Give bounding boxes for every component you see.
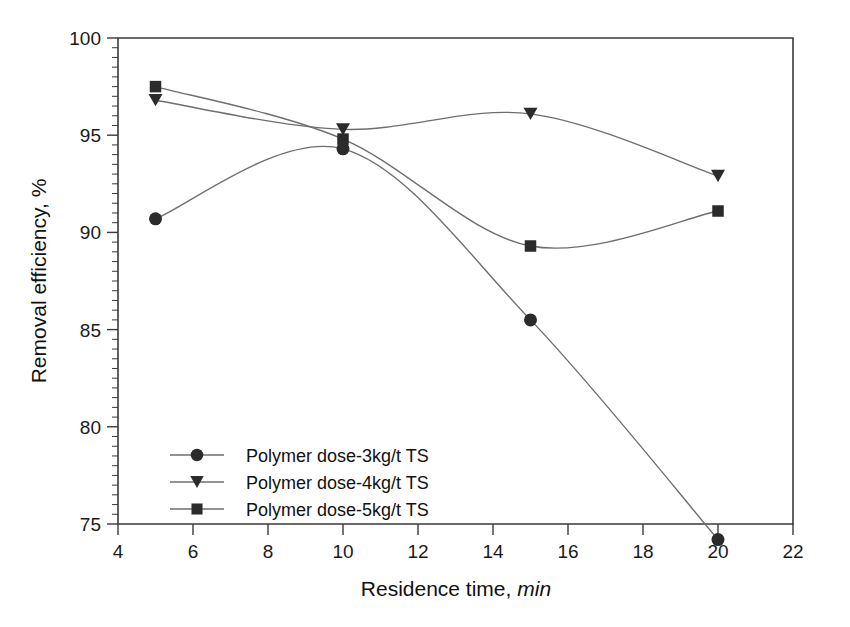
y-tick-label-100: 100 [69, 28, 101, 49]
x-axis-title: Residence time,min [361, 577, 551, 600]
y-tick-label-80: 80 [80, 417, 101, 438]
chart-background [0, 0, 850, 627]
y-tick-label-85: 85 [80, 320, 101, 341]
x-tick-label-18: 18 [632, 541, 653, 562]
legend-label-3: Polymer dose-5kg/t TS [246, 500, 429, 520]
x-tick-label-22: 22 [782, 541, 803, 562]
series-3-marker-10 [337, 133, 349, 145]
y-tick-label-75: 75 [80, 514, 101, 535]
series-3-marker-15 [525, 240, 537, 252]
series-3-marker-20 [712, 205, 724, 217]
x-tick-label-12: 12 [407, 541, 428, 562]
y-tick-label-90: 90 [80, 222, 101, 243]
legend-marker-3 [191, 503, 202, 514]
legend-label-2: Polymer dose-4kg/t TS [246, 473, 429, 493]
x-tick-label-10: 10 [332, 541, 353, 562]
series-3-marker-5 [150, 81, 162, 93]
y-tick-label-95: 95 [80, 125, 101, 146]
y-axis-title: Removal efficiency, % [27, 179, 50, 384]
x-tick-label-14: 14 [482, 541, 504, 562]
removal-efficiency-line-chart: 7580859095100 46810121416182022 Polymer … [0, 0, 850, 627]
x-tick-label-4: 4 [113, 541, 124, 562]
x-tick-label-6: 6 [188, 541, 199, 562]
x-tick-label-16: 16 [557, 541, 578, 562]
series-1-marker-5 [149, 212, 162, 225]
series-1-marker-15 [524, 313, 537, 326]
legend-label-1: Polymer dose-3kg/t TS [246, 446, 429, 466]
x-tick-label-8: 8 [263, 541, 274, 562]
chart-figure: 7580859095100 46810121416182022 Polymer … [0, 0, 850, 627]
series-1-marker-20 [712, 533, 725, 546]
legend-marker-1 [191, 449, 203, 461]
